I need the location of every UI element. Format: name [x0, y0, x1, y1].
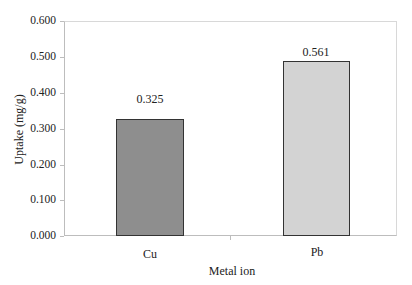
- data-label-pb-box: 0.561: [291, 45, 341, 60]
- y-tick-label: 0.100: [6, 193, 56, 205]
- x-axis-title: Metal ion: [197, 264, 267, 279]
- y-tick-label: 0.600: [6, 14, 56, 26]
- x-tick-label-cu: Cu: [120, 247, 180, 262]
- y-tick-label: 0.000: [6, 229, 56, 241]
- y-tick-label: 0.300: [6, 122, 56, 134]
- bar-cu: [116, 119, 184, 236]
- data-label-pb: 0.561: [300, 44, 333, 60]
- y-tick-label: 0.500: [6, 50, 56, 62]
- bar-pb: [283, 61, 350, 236]
- data-label-cu: 0.325: [125, 92, 175, 107]
- y-tick-mark: [60, 236, 64, 237]
- x-tick-label-pb: Pb: [287, 245, 347, 260]
- y-tick-label: 0.400: [6, 86, 56, 98]
- y-tick-label: 0.200: [6, 158, 56, 170]
- x-tick-mark: [230, 236, 231, 240]
